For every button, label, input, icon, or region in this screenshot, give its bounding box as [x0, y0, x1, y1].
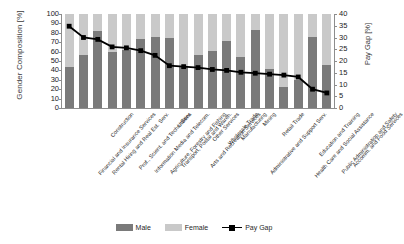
paygap-marker	[81, 35, 86, 40]
paygap-marker	[324, 91, 329, 96]
y-axis-left-tick-label: 60	[43, 48, 59, 55]
paygap-marker	[110, 45, 115, 50]
y-axis-left-tick-label: 50	[43, 57, 59, 64]
y-axis-left-tick-label: 90	[43, 19, 59, 26]
y-axis-right-tick-label: 5	[339, 92, 355, 99]
y-axis-left-tick-label: 40	[43, 66, 59, 73]
y-axis-left-tick-label: 30	[43, 76, 59, 83]
y-axis-left-tick-label: 100	[43, 10, 59, 17]
y-axis-left-title: Gender Composition [%]	[15, 0, 29, 111]
paygap-marker	[296, 75, 301, 80]
y-axis-right-tick-mark	[335, 61, 337, 62]
paygap-marker	[224, 68, 229, 73]
paygap-marker	[239, 70, 244, 75]
y-axis-right-tick-mark	[335, 73, 337, 74]
y-axis-left-tick-label: 70	[43, 38, 59, 45]
male-swatch-icon	[116, 224, 133, 231]
y-axis-left-tick-label: 80	[43, 29, 59, 36]
x-axis-tick-label: Utilities	[176, 111, 193, 128]
paygap-line-path	[69, 26, 327, 93]
paygap-marker	[281, 73, 286, 78]
y-axis-left-tick-mark	[59, 70, 61, 71]
y-axis-right-tick-mark	[335, 49, 337, 50]
y-axis-right-tick-mark	[335, 38, 337, 39]
y-axis-right-tick-label: 30	[339, 34, 355, 41]
paygap-line	[62, 14, 334, 109]
paygap-marker	[253, 71, 258, 76]
paygap-marker	[310, 87, 315, 92]
legend-label-male: Male	[136, 224, 151, 231]
y-axis-left-tick-mark	[59, 61, 61, 62]
paygap-marker	[67, 24, 72, 29]
paygap-marker	[153, 53, 158, 58]
y-axis-right-tick-mark	[335, 26, 337, 27]
y-axis-left-tick-mark	[59, 89, 61, 90]
y-axis-left-tick-mark	[59, 42, 61, 43]
y-axis-right-tick-label: 20	[339, 57, 355, 64]
y-axis-left-tick-mark	[59, 23, 61, 24]
y-axis-left-tick-mark	[59, 52, 61, 53]
paygap-marker	[196, 65, 201, 70]
y-axis-left-tick-label: 20	[43, 85, 59, 92]
y-axis-right-title: Pay Gap [%]	[363, 13, 375, 75]
x-axis-category-labels: Financial and Insurance ServicesRental H…	[0, 108, 388, 200]
y-axis-left-tick-label: 10	[43, 95, 59, 102]
y-axis-right-tick-label: 10	[339, 81, 355, 88]
paygap-marker	[267, 72, 272, 77]
chart-legend: Male Female Pay Gap	[0, 219, 388, 235]
y-axis-right-tick-label: 25	[339, 45, 355, 52]
paygap-marker	[181, 64, 186, 69]
legend-label-female: Female	[185, 224, 208, 231]
y-axis-right-tick-label: 35	[339, 22, 355, 29]
legend-item-paygap: Pay Gap	[222, 224, 272, 231]
y-axis-left-tick-mark	[59, 33, 61, 34]
paygap-line-swatch-icon	[222, 224, 242, 231]
y-axis-left-tick-mark	[59, 80, 61, 81]
y-axis-right-tick-mark	[335, 14, 337, 15]
paygap-marker	[138, 48, 143, 53]
y-axis-left-tick-mark	[59, 14, 61, 15]
y-axis-left-tick-mark	[59, 99, 61, 100]
legend-label-paygap: Pay Gap	[245, 224, 272, 231]
paygap-marker	[124, 45, 129, 50]
y-axis-right-tick-label: 40	[339, 10, 355, 17]
legend-item-male: Male	[116, 224, 151, 231]
y-axis-right-tick-mark	[335, 96, 337, 97]
y-axis-right-tick-label: 15	[339, 69, 355, 76]
paygap-marker	[95, 37, 100, 42]
plot-area: 0102030405060708090100 0510152025303540	[62, 14, 334, 108]
paygap-marker	[210, 67, 215, 72]
legend-item-female: Female	[165, 224, 208, 231]
paygap-marker	[167, 63, 172, 68]
y-axis-right-tick-mark	[335, 85, 337, 86]
x-axis-tick-label: Accomm. and Food Services	[351, 111, 403, 168]
female-swatch-icon	[165, 224, 182, 231]
